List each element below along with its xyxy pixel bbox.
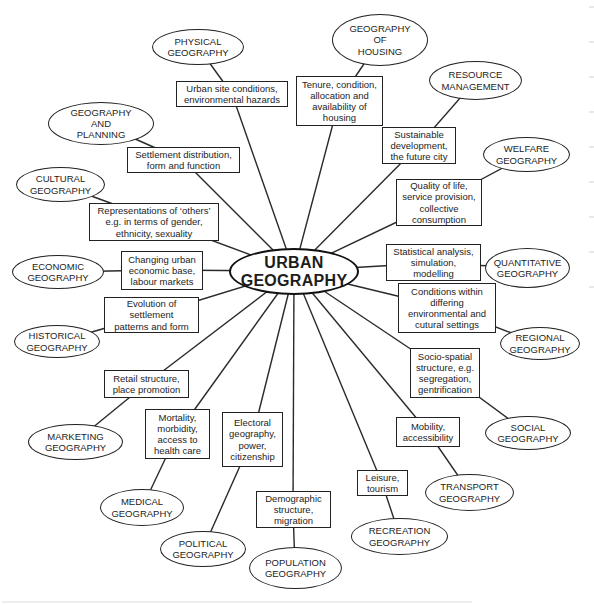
topic-box-urban-site-conditions: Urban site conditions, environmental haz… xyxy=(176,81,288,107)
node-geography-of-housing: GEOGRAPHY OF HOUSING xyxy=(332,14,428,66)
node-welfare-geography: WELFARE GEOGRAPHY xyxy=(483,137,570,172)
node-geography-and-planning: GEOGRAPHY AND PLANNING xyxy=(48,102,154,145)
node-economic-geography: ECONOMIC GEOGRAPHY xyxy=(12,255,104,289)
topic-box-statistical-analysis: Statistical analysis, simulation, modell… xyxy=(386,244,481,281)
topic-box-demographic-structure: Demographic structure, migration xyxy=(256,491,331,528)
node-quantitative-geography: QUANTITATIVE GEOGRAPHY xyxy=(485,248,570,288)
topic-box-socio-spatial: Socio-spatial structure, e.g. segregatio… xyxy=(410,348,480,398)
connector-line xyxy=(294,271,382,483)
node-physical-geography: PHYSICAL GEOGRAPHY xyxy=(152,29,244,65)
node-cultural-geography: CULTURAL GEOGRAPHY xyxy=(16,167,105,202)
node-resource-management: RESOURCE MANAGEMENT xyxy=(429,61,522,100)
topic-box-conditions-settings: Conditions within differing environmenta… xyxy=(398,283,496,333)
node-social-geography: SOCIAL GEOGRAPHY xyxy=(485,416,571,450)
page-edge-artifact xyxy=(589,6,594,296)
page-bottom-artifact xyxy=(2,601,472,603)
topic-box-electoral-geography: Electoral geography, power, citizenship xyxy=(222,412,283,467)
urban-geography-concept-map: Urban site conditions, environmental haz… xyxy=(0,0,594,605)
topic-box-mobility-accessibility: Mobility, accessibility xyxy=(396,417,460,447)
node-regional-geography: REGIONAL GEOGRAPHY xyxy=(500,327,580,360)
topic-box-leisure-tourism: Leisure, tourism xyxy=(357,470,408,496)
node-medical-geography: MEDICAL GEOGRAPHY xyxy=(100,489,184,526)
topic-box-representations-others: Representations of ‘others’ e.g. in term… xyxy=(89,203,219,241)
connector-line xyxy=(232,94,294,271)
topic-box-settlement-distribution: Settlement distribution, form and functi… xyxy=(127,147,240,173)
hub-urban-geography: URBAN GEOGRAPHY xyxy=(229,248,359,295)
node-transport-geography: TRANSPORT GEOGRAPHY xyxy=(425,474,514,511)
topic-box-quality-of-life: Quality of life, service provision, coll… xyxy=(396,179,482,226)
topic-box-sustainable-development: Sustainable development, the future city xyxy=(382,127,456,164)
topic-box-mortality-morbidity: Mortality, morbidity, access to health c… xyxy=(145,409,210,459)
topic-box-changing-economic-base: Changing urban economic base, labour mar… xyxy=(121,251,203,290)
node-marketing-geography: MARKETING GEOGRAPHY xyxy=(28,424,123,460)
node-population-geography: POPULATION GEOGRAPHY xyxy=(249,547,342,589)
node-political-geography: POLITICAL GEOGRAPHY xyxy=(160,531,246,567)
connector-line xyxy=(293,271,294,509)
topic-box-evolution-settlement: Evolution of settlement patterns and for… xyxy=(104,297,199,333)
node-historical-geography: HISTORICAL GEOGRAPHY xyxy=(14,325,100,358)
topic-box-tenure-housing: Tenure, condition, allocation and availa… xyxy=(296,76,383,126)
node-recreation-geography: RECREATION GEOGRAPHY xyxy=(351,518,448,555)
topic-box-retail-structure: Retail structure, place promotion xyxy=(104,370,189,398)
connector-line xyxy=(294,101,339,271)
